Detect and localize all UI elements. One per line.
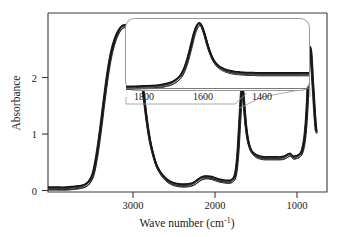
y-tick-label-0: 0	[32, 186, 37, 197]
inset-x-tick-label-1400: 1400	[252, 91, 272, 102]
chart-canvas: 0 1 2 3000 2000 1000 Wave number (cm-1) …	[0, 0, 347, 237]
inset-x-tick-label-1600: 1600	[193, 91, 213, 102]
x-axis-title: Wave number (cm-1)	[139, 216, 234, 230]
x-axis-title-superscript: -1	[224, 216, 231, 225]
y-tick-label-2: 2	[32, 73, 37, 84]
inset-x-tick-label-1800: 1800	[134, 91, 154, 102]
y-axis-title: Absorbance	[10, 76, 22, 131]
x-tick-label-3000: 3000	[123, 200, 144, 211]
x-axis-title-tail: )	[231, 217, 235, 230]
connector-right	[238, 88, 310, 109]
inset-frame	[126, 19, 310, 91]
ftir-spectrum-figure: 0 1 2 3000 2000 1000 Wave number (cm-1) …	[0, 0, 347, 237]
y-tick-label-1: 1	[32, 129, 37, 140]
inset-panel: 1800 1600 1400	[125, 19, 310, 103]
x-axis-title-main: Wave number (cm	[139, 217, 224, 230]
x-axis-ticks	[133, 192, 297, 198]
x-tick-label-1000: 1000	[287, 200, 308, 211]
y-axis-ticks	[42, 78, 48, 191]
x-tick-label-2000: 2000	[205, 200, 226, 211]
